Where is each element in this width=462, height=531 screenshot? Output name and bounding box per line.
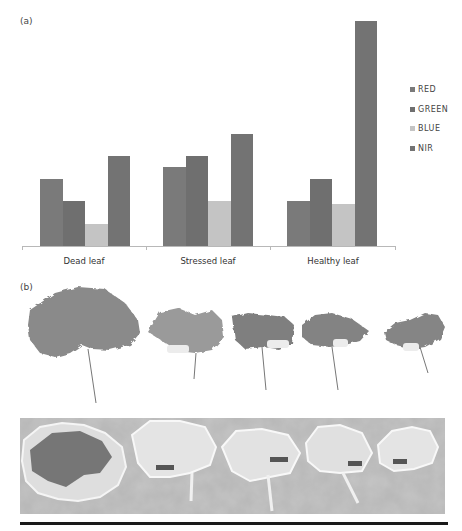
bar-red-healthy-leaf [287, 201, 310, 246]
legend-swatch-blue [410, 126, 415, 131]
leaf-photographs: (b) [0, 275, 462, 531]
legend-label: BLUE [418, 124, 440, 133]
bar-nir-stressed-leaf [231, 134, 254, 247]
bar-blue-stressed-leaf [208, 201, 231, 246]
x-axis-tick [395, 246, 396, 250]
bar-nir-dead-leaf [108, 156, 131, 246]
legend: RED GREEN BLUE NIR [410, 80, 448, 158]
category-label-dead: Dead leaf [24, 256, 144, 266]
bar-green-dead-leaf [63, 201, 86, 246]
leaf-photo-image [0, 275, 462, 531]
legend-item-red: RED [410, 80, 448, 100]
legend-item-blue: BLUE [410, 119, 448, 139]
legend-label: RED [418, 85, 436, 94]
x-axis-tick [146, 246, 147, 250]
bar-blue-dead-leaf [85, 224, 108, 247]
bar-chart: (a) Dead leaf Stressed leaf Healthy leaf… [0, 0, 462, 275]
leaf-photo-top-row [28, 287, 445, 357]
panel-label-a: (a) [20, 16, 33, 26]
x-axis-line [22, 246, 396, 247]
x-axis-tick [270, 246, 271, 250]
bar-nir-healthy-leaf [355, 21, 378, 246]
bar-red-dead-leaf [40, 179, 63, 247]
leaf-processed-bottom-row [20, 418, 445, 514]
legend-swatch-green [410, 107, 415, 112]
bar-blue-healthy-leaf [332, 204, 355, 246]
legend-swatch-nir [410, 146, 415, 151]
figure-bottom-rule [20, 522, 448, 525]
bar-red-stressed-leaf [163, 167, 186, 246]
legend-label: NIR [418, 144, 433, 153]
bar-green-stressed-leaf [186, 156, 209, 246]
legend-swatch-red [410, 87, 415, 92]
x-axis-tick [22, 246, 23, 250]
legend-item-green: GREEN [410, 100, 448, 120]
category-label-healthy: Healthy leaf [273, 256, 393, 266]
legend-label: GREEN [418, 105, 448, 114]
bar-green-healthy-leaf [310, 179, 333, 247]
legend-item-nir: NIR [410, 139, 448, 159]
category-label-stressed: Stressed leaf [148, 256, 268, 266]
